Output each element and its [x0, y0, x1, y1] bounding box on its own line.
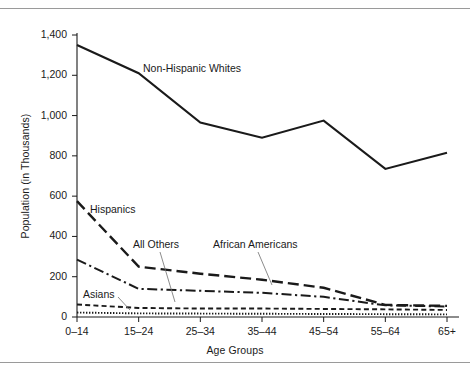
x-tick-label: 45–54 — [294, 325, 354, 337]
y-tick-label: 400 — [21, 229, 67, 241]
label-leader-line — [118, 297, 130, 310]
y-axis-title: Population (in Thousands) — [19, 76, 31, 276]
chart-page: Population (in Thousands) Age Groups 020… — [0, 0, 470, 373]
line-chart-canvas — [0, 0, 470, 373]
y-tick-label: 600 — [21, 189, 67, 201]
label-leader-line — [160, 252, 175, 302]
y-tick-label: 1,200 — [21, 68, 67, 80]
x-tick-label: 15–24 — [109, 325, 169, 337]
series-line — [77, 45, 447, 169]
x-tick-label: 0–14 — [47, 325, 107, 337]
series-label: Non-Hispanic Whites — [143, 62, 241, 74]
y-tick-label: 1,000 — [21, 109, 67, 121]
series-line — [77, 201, 447, 306]
series-group — [77, 45, 447, 314]
axes-group — [72, 33, 459, 322]
x-tick-label: 25–34 — [170, 325, 230, 337]
y-tick-label: 1,400 — [21, 28, 67, 40]
x-tick-label: 65+ — [417, 325, 470, 337]
series-line — [77, 260, 447, 307]
series-label: All Others — [133, 238, 179, 250]
series-line — [77, 313, 447, 315]
x-axis-title: Age Groups — [0, 344, 470, 356]
y-tick-label: 200 — [21, 270, 67, 282]
x-tick-label: 55–64 — [355, 325, 415, 337]
leader-lines-group — [118, 252, 272, 310]
x-tick-label: 35–44 — [232, 325, 292, 337]
series-label: Asians — [83, 288, 115, 300]
series-label: African Americans — [213, 238, 298, 250]
y-tick-label: 800 — [21, 149, 67, 161]
y-tick-label: 0 — [21, 310, 67, 322]
series-label: Hispanics — [90, 203, 136, 215]
